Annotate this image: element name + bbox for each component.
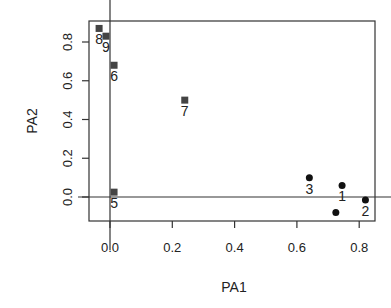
circle-marker [332,209,339,216]
point-label: 2 [362,203,370,219]
x-tick-label: 0.8 [350,240,368,255]
y-tick-label: 0.6 [60,72,75,90]
point-label: 3 [305,181,313,197]
y-tick-label: 0.0 [60,188,75,206]
x-axis: 0.00.20.40.60.8 [101,221,368,255]
scatter-plot: 0.00.20.40.60.8 0.00.20.40.60.8 12356789… [0,0,391,308]
point-label: 9 [102,39,110,55]
y-tick-label: 0.4 [60,110,75,128]
x-tick-label: 0.4 [226,240,244,255]
x-tick-label: 0.2 [163,240,181,255]
x-tick-label: 0.6 [288,240,306,255]
point-label: 6 [110,68,118,84]
y-axis: 0.00.20.40.60.8 [60,33,89,206]
x-axis-label: PA1 [221,279,247,295]
x-tick-label: 0.0 [101,240,119,255]
y-tick-label: 0.8 [60,33,75,51]
point-label: 5 [110,195,118,211]
y-tick-label: 0.2 [60,149,75,167]
y-axis-label: PA2 [24,108,40,134]
point-label: 1 [338,188,346,204]
point-label: 7 [181,103,189,119]
data-points: 12356789 [95,25,369,219]
reference-lines [78,0,391,250]
plot-frame [89,21,375,221]
